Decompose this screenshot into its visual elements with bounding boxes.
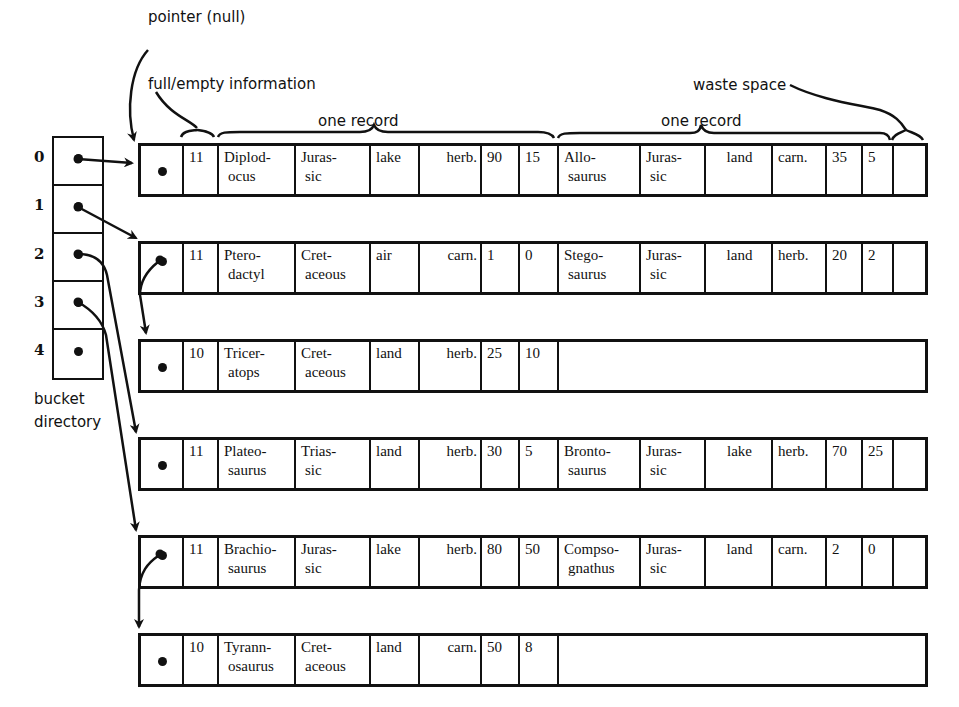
bucket-0: 11 Diplod-ocus Juras-sic lake herb. 90 1… [138, 143, 928, 197]
directory-slot-1 [54, 186, 102, 234]
waste-space-cell [894, 440, 928, 488]
habitat-cell: land [706, 146, 773, 194]
waste-space-cell [894, 146, 928, 194]
directory-index-2: 2 [34, 245, 44, 263]
value1-cell: 80 [482, 538, 520, 586]
full-empty-cell: 10 [184, 342, 219, 390]
bucket-pointer-cell [141, 342, 184, 390]
bucket-directory-label-line2: directory [34, 413, 101, 431]
pointer-dot-icon [158, 657, 167, 666]
period-cell: Trias-sic [296, 440, 371, 488]
pointer-dot-icon [158, 461, 167, 470]
directory-slot-2 [54, 234, 102, 282]
full-empty-cell: 10 [184, 636, 219, 684]
pointer-dot-icon [158, 363, 167, 372]
brace-full-empty-icon [181, 130, 214, 137]
habitat-cell: lake [706, 440, 773, 488]
full-empty-leader-icon [156, 92, 197, 128]
bucket-4: 11 Brachio-saurus Juras-sic lake herb. 8… [138, 535, 928, 589]
directory-slot-0 [54, 138, 102, 186]
waste-space-leader-icon [790, 85, 906, 130]
pointer-dot-icon [74, 298, 83, 307]
habitat-cell: land [371, 342, 420, 390]
name-cell: Plateo-saurus [219, 440, 296, 488]
waste-space-cell [894, 538, 928, 586]
pointer-dot-icon [74, 347, 83, 356]
habitat-cell: land [706, 538, 773, 586]
bucket-1: 11 Ptero-dactyl Cret-aceous air carn. 1 … [138, 241, 928, 295]
pointer-dot-icon [158, 257, 167, 266]
value1-cell: 30 [482, 440, 520, 488]
diet-cell: carn. [420, 244, 482, 292]
pointer-dot-icon [74, 250, 83, 259]
value1-cell: 20 [827, 244, 863, 292]
brace-waste-space-icon [892, 130, 923, 140]
value1-cell: 70 [827, 440, 863, 488]
full-empty-cell: 11 [184, 146, 219, 194]
diet-cell: carn. [773, 146, 827, 194]
diet-cell: carn. [420, 636, 482, 684]
bucket-pointer-cell [141, 440, 184, 488]
value2-cell: 0 [863, 538, 894, 586]
directory-index-3: 3 [34, 293, 44, 311]
bucket-directory-label-line1: bucket [34, 390, 85, 408]
directory-index-1: 1 [34, 196, 44, 214]
period-cell: Juras-sic [296, 146, 371, 194]
period-cell: Juras-sic [641, 440, 706, 488]
empty-slot-cell [559, 636, 928, 684]
directory-index-0: 0 [34, 148, 44, 166]
name-cell: Brachio-saurus [219, 538, 296, 586]
value2-cell: 5 [863, 146, 894, 194]
name-cell: Tricer-atops [219, 342, 296, 390]
full-empty-info-label: full/empty information [148, 75, 316, 93]
diet-cell: herb. [420, 342, 482, 390]
value1-cell: 25 [482, 342, 520, 390]
value2-cell: 5 [520, 440, 559, 488]
bucket-pointer-cell [141, 146, 184, 194]
full-empty-cell: 11 [184, 538, 219, 586]
habitat-cell: land [371, 440, 420, 488]
bucket-directory [52, 136, 104, 380]
name-cell: Compso-gnathus [559, 538, 641, 586]
pointer-dot-icon [74, 202, 83, 211]
habitat-cell: lake [371, 538, 420, 586]
bucket-5: 10 Tyrann-osaurus Cret-aceous land carn.… [138, 633, 928, 687]
diet-cell: carn. [773, 538, 827, 586]
pointer-null-label: pointer (null) [148, 8, 245, 26]
bucket-pointer-cell [141, 244, 184, 292]
period-cell: Cret-aceous [296, 244, 371, 292]
period-cell: Juras-sic [641, 244, 706, 292]
bucket-3: 11 Plateo-saurus Trias-sic land herb. 30… [138, 437, 928, 491]
pointer-dot-icon [74, 154, 83, 163]
value2-cell: 0 [520, 244, 559, 292]
diet-cell: herb. [773, 440, 827, 488]
pointer-null-arrow-icon [130, 50, 148, 140]
value2-cell: 2 [863, 244, 894, 292]
diet-cell: herb. [420, 146, 482, 194]
habitat-cell: land [371, 636, 420, 684]
period-cell: Juras-sic [641, 538, 706, 586]
directory-slot-4 [54, 330, 102, 378]
value1-cell: 1 [482, 244, 520, 292]
habitat-cell: land [706, 244, 773, 292]
period-cell: Juras-sic [641, 146, 706, 194]
full-empty-cell: 11 [184, 440, 219, 488]
value1-cell: 50 [482, 636, 520, 684]
name-cell: Ptero-dactyl [219, 244, 296, 292]
empty-slot-cell [559, 342, 928, 390]
full-empty-cell: 11 [184, 244, 219, 292]
value1-cell: 35 [827, 146, 863, 194]
pointer-dot-icon [158, 551, 167, 560]
name-cell: Stego-saurus [559, 244, 641, 292]
period-cell: Cret-aceous [296, 636, 371, 684]
name-cell: Bronto-saurus [559, 440, 641, 488]
value2-cell: 8 [520, 636, 559, 684]
bucket-2: 10 Tricer-atops Cret-aceous land herb. 2… [138, 339, 928, 393]
habitat-cell: lake [371, 146, 420, 194]
value1-cell: 2 [827, 538, 863, 586]
directory-slot-3 [54, 282, 102, 330]
period-cell: Juras-sic [296, 538, 371, 586]
diet-cell: herb. [420, 440, 482, 488]
diet-cell: herb. [773, 244, 827, 292]
period-cell: Cret-aceous [296, 342, 371, 390]
